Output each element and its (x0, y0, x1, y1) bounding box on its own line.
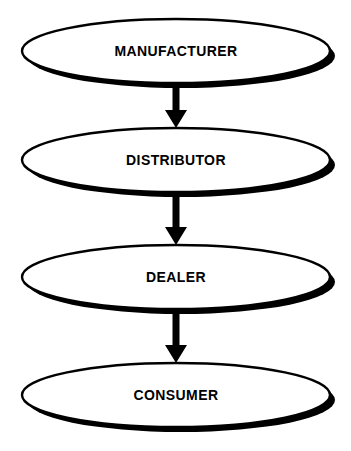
node-distributor-label: DISTRIBUTOR (126, 152, 226, 168)
node-manufacturer-label: MANUFACTURER (114, 43, 237, 59)
distribution-flow-diagram: MANUFACTURER DISTRIBUTOR DEALER (0, 0, 351, 451)
node-dealer-label: DEALER (146, 269, 206, 285)
node-consumer-label: CONSUMER (134, 387, 219, 403)
connector-distributor-to-dealer[interactable] (165, 193, 187, 245)
down-arrow-icon (165, 310, 187, 363)
node-dealer[interactable]: DEALER (22, 245, 335, 314)
node-consumer[interactable]: CONSUMER (22, 363, 335, 432)
node-distributor[interactable]: DISTRIBUTOR (22, 128, 335, 197)
node-manufacturer[interactable]: MANUFACTURER (22, 19, 335, 88)
connector-dealer-to-consumer[interactable] (165, 310, 187, 363)
down-arrow-icon (165, 193, 187, 245)
connector-manufacturer-to-distributor[interactable] (165, 83, 187, 128)
down-arrow-icon (165, 83, 187, 128)
flowchart-canvas: MANUFACTURER DISTRIBUTOR DEALER (0, 0, 351, 451)
